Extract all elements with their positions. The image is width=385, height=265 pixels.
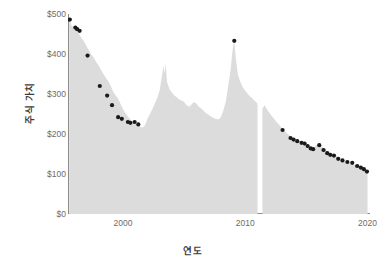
stock-value-area-chart: 주식 가치 $0$100$200$300$400$500 20002010202… <box>0 0 385 265</box>
y-tick-label-4: $400 <box>32 50 66 59</box>
scatter-point-15 <box>280 128 284 132</box>
scatter-point-3 <box>78 29 82 33</box>
scatter-point-6 <box>105 94 109 98</box>
scatter-point-32 <box>350 161 354 165</box>
scatter-point-31 <box>345 160 349 164</box>
y-tick-label-0: $0 <box>32 210 66 219</box>
y-axis-tick-labels: $0$100$200$300$400$500 <box>26 0 66 265</box>
scatter-point-14 <box>232 39 236 43</box>
scatter-point-17 <box>291 138 295 142</box>
scatter-point-8 <box>116 115 120 119</box>
area-fill-segment-0 <box>69 19 257 214</box>
plot-area <box>68 14 370 214</box>
y-tick-label-5: $500 <box>32 10 66 19</box>
scatter-point-11 <box>128 121 132 125</box>
scatter-point-5 <box>98 84 102 88</box>
scatter-point-13 <box>136 122 140 126</box>
y-tick-label-3: $300 <box>32 90 66 99</box>
scatter-point-7 <box>110 103 114 107</box>
scatter-point-28 <box>332 154 336 158</box>
x-tick-label-0: 2000 <box>103 219 143 228</box>
scatter-point-27 <box>328 153 332 157</box>
scatter-point-9 <box>120 117 124 121</box>
scatter-point-24 <box>317 143 321 147</box>
scatter-point-36 <box>365 170 369 174</box>
x-tick-label-1: 2010 <box>225 219 265 228</box>
scatter-point-23 <box>311 147 315 151</box>
scatter-point-25 <box>321 148 325 152</box>
x-tick-label-2: 2020 <box>348 219 385 228</box>
x-axis-title: 연도 <box>0 243 385 257</box>
y-tick-label-1: $100 <box>32 170 66 179</box>
scatter-point-12 <box>133 120 137 124</box>
scatter-point-18 <box>295 139 299 143</box>
scatter-point-29 <box>336 157 340 161</box>
scatter-point-0 <box>68 18 72 22</box>
plot-svg <box>68 14 370 214</box>
scatter-point-4 <box>85 54 89 58</box>
scatter-point-33 <box>355 164 359 168</box>
area-fill-segment-1 <box>262 105 367 214</box>
scatter-point-30 <box>340 158 344 162</box>
y-tick-label-2: $200 <box>32 130 66 139</box>
